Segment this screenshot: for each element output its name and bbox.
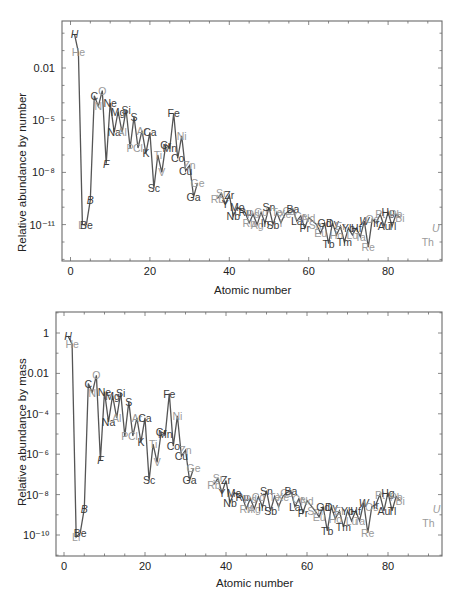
element-label-ca: Ca bbox=[143, 126, 157, 138]
element-label-fe: Fe bbox=[168, 107, 180, 119]
x-tick-label: 60 bbox=[301, 560, 313, 572]
y-tick-label: 10⁻⁵ bbox=[32, 114, 55, 126]
element-label-re: Re bbox=[361, 527, 375, 539]
y-axis-label-number: Relative abundance by number bbox=[16, 93, 28, 252]
element-label-zn: Zn bbox=[183, 159, 195, 171]
x-axis-label-mass: Atomic number bbox=[216, 577, 293, 589]
element-label-he: He bbox=[65, 338, 79, 350]
element-label-k: K bbox=[142, 147, 149, 159]
x-tick-label: 80 bbox=[382, 265, 394, 277]
element-label-u: U bbox=[433, 503, 441, 515]
element-label-ge: Ge bbox=[191, 177, 205, 189]
element-label-he: He bbox=[72, 46, 86, 58]
element-label-si: Si bbox=[121, 104, 130, 116]
element-label-k: K bbox=[137, 436, 144, 448]
element-label-ge: Ge bbox=[187, 462, 201, 474]
element-label-s: S bbox=[131, 111, 138, 123]
element-label-o: O bbox=[92, 369, 100, 381]
element-label-be: Be bbox=[74, 527, 87, 539]
element-label-ta: Ta bbox=[354, 515, 365, 527]
x-tick-label: 40 bbox=[220, 560, 232, 572]
element-label-v: V bbox=[154, 456, 161, 468]
y-axis-label-mass: Relative abundance by mass bbox=[16, 358, 28, 506]
element-label-al: Al bbox=[112, 412, 121, 424]
element-label-si: Si bbox=[116, 387, 125, 399]
element-label-b: B bbox=[87, 194, 94, 206]
x-tick-label: 40 bbox=[223, 265, 235, 277]
element-label-sc: Sc bbox=[143, 474, 155, 486]
element-label-ni: Ni bbox=[172, 410, 182, 422]
y-tick-label: 10⁻¹⁰ bbox=[23, 529, 50, 541]
chart-abundance-by-mass: 02040608010.0110⁻⁴10⁻⁶10⁻⁸10⁻¹⁰HHeLiBeBC… bbox=[0, 300, 462, 603]
x-tick-label: 0 bbox=[61, 560, 67, 572]
y-tick-label: 10⁻⁸ bbox=[32, 166, 55, 178]
x-axis-label-number: Atomic number bbox=[214, 284, 291, 296]
y-tick-label: 10⁻⁸ bbox=[26, 489, 49, 501]
element-label-mn: Mn bbox=[158, 428, 173, 440]
element-label-th: Th bbox=[422, 517, 434, 529]
element-label-ca: Ca bbox=[138, 412, 152, 424]
element-label-zr: Zr bbox=[224, 189, 234, 201]
element-label-sb: Sb bbox=[264, 505, 277, 517]
y-tick-label: 10⁻¹¹ bbox=[29, 219, 55, 231]
element-label-cl: Cl bbox=[128, 430, 138, 442]
element-label-zr: Zr bbox=[221, 474, 231, 486]
element-label-b: B bbox=[81, 503, 88, 515]
plot-area-number: 0204060800.0110⁻⁵10⁻⁸10⁻¹¹HHeLiBeBCNOFNe… bbox=[0, 0, 462, 300]
element-label-f: F bbox=[97, 454, 104, 466]
element-label-tb: Tb bbox=[321, 525, 333, 537]
element-label-al: Al bbox=[117, 126, 126, 138]
element-label-bi: Bi bbox=[395, 212, 404, 224]
element-label-sb: Sb bbox=[267, 219, 280, 231]
element-label-n: N bbox=[89, 387, 97, 399]
x-tick-label: 20 bbox=[144, 265, 156, 277]
chart-abundance-by-number: 0204060800.0110⁻⁵10⁻⁸10⁻¹¹HHeLiBeBCNOFNe… bbox=[0, 0, 462, 300]
y-tick-label: 10⁻⁶ bbox=[26, 448, 49, 460]
element-label-s: S bbox=[125, 396, 132, 408]
element-label-re: Re bbox=[362, 241, 376, 253]
plot-frame bbox=[56, 312, 442, 556]
element-label-f: F bbox=[103, 158, 110, 170]
x-tick-label: 20 bbox=[139, 560, 151, 572]
element-label-ti: Ti bbox=[154, 149, 162, 161]
y-tick-label: 10⁻⁴ bbox=[26, 408, 49, 420]
element-label-o: O bbox=[98, 85, 106, 97]
element-label-u: U bbox=[432, 222, 440, 234]
element-label-v: V bbox=[158, 166, 165, 178]
element-label-ni: Ni bbox=[177, 130, 187, 142]
x-tick-label: 80 bbox=[382, 560, 394, 572]
element-label-sc: Sc bbox=[148, 182, 160, 194]
element-label-be: Be bbox=[80, 219, 93, 231]
y-tick-label: 0.01 bbox=[28, 367, 49, 379]
element-label-h: H bbox=[71, 28, 79, 40]
x-tick-label: 0 bbox=[67, 265, 73, 277]
plot-area-mass: 02040608010.0110⁻⁴10⁻⁶10⁻⁸10⁻¹⁰HHeLiBeBC… bbox=[0, 300, 462, 603]
element-label-zn: Zn bbox=[179, 444, 191, 456]
element-label-ti: Ti bbox=[149, 438, 157, 450]
element-label-n: N bbox=[94, 100, 102, 112]
element-label-ga: Ga bbox=[183, 474, 197, 486]
x-tick-label: 60 bbox=[303, 265, 315, 277]
element-label-th: Th bbox=[422, 236, 434, 248]
y-tick-label: 1 bbox=[43, 327, 49, 339]
element-label-ga: Ga bbox=[187, 191, 201, 203]
element-label-bi: Bi bbox=[395, 495, 404, 507]
element-label-fe: Fe bbox=[163, 388, 175, 400]
y-tick-label: 0.01 bbox=[34, 62, 55, 74]
